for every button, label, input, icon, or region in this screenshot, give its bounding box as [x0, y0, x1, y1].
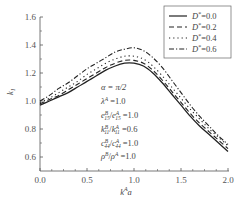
annotation-k11-ratio: kB11/kA11 =0.6	[101, 124, 137, 135]
svg-text:D*=0.4: D*=0.4	[191, 33, 217, 43]
curves	[40, 48, 228, 152]
line-chart: 0.60.81.01.21.41.6 0.00.51.01.52.0 k1 kA…	[0, 0, 241, 203]
annotation-lambda: λA =1.0	[100, 96, 126, 106]
y-tick-label: 1.0	[25, 96, 37, 106]
y-tick-label: 0.6	[25, 152, 37, 162]
y-tick-label: 1.6	[25, 12, 37, 22]
annotation-c44-ratio: cB44/cA44 =1.0	[101, 138, 138, 149]
x-tick-label: 2.0	[222, 175, 234, 185]
x-tick-label: 1.0	[128, 175, 140, 185]
x-tick-label: 1.5	[175, 175, 187, 185]
x-tick-label: 0.0	[34, 175, 46, 185]
annotation-alpha: α = π/2	[101, 82, 127, 92]
y-tick-label: 1.2	[25, 68, 36, 78]
svg-text:D*=0.6: D*=0.6	[191, 44, 217, 54]
svg-text:D*=0.2: D*=0.2	[191, 22, 217, 32]
x-tick-label: 0.5	[81, 175, 93, 185]
annotation-e15-ratio: eB15/eA15 =1.0	[101, 110, 138, 121]
legend: D*=0.0 D*=0.2 D*=0.4 D*=0.6	[164, 6, 231, 58]
x-axis-label: kAa	[120, 186, 132, 197]
y-axis-label: k1	[5, 88, 16, 95]
annotation-rho-ratio: ρB/ρA =1.0	[100, 151, 136, 161]
svg-text:D*=0.0: D*=0.0	[191, 11, 217, 21]
parameter-annotations: α = π/2 λA =1.0 eB15/eA15 =1.0 kB11/kA11…	[100, 82, 138, 161]
series-line-1	[40, 60, 228, 149]
x-ticks: 0.00.51.01.52.0	[34, 168, 234, 185]
y-tick-label: 1.4	[25, 40, 37, 50]
y-tick-label: 0.8	[25, 124, 37, 134]
